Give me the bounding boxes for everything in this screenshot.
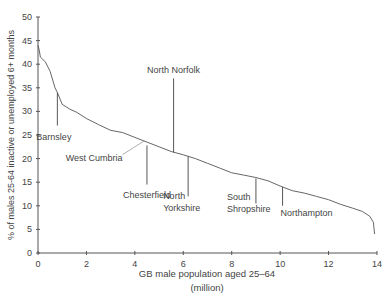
svg-text:Yorkshire: Yorkshire [163, 203, 200, 213]
annotations: BarnsleyWest CumbriaNorth NorfolkChester… [36, 65, 332, 217]
x-axis-label: GB male population aged 25–64 [139, 268, 275, 279]
x-tick-label: 12 [324, 259, 334, 269]
svg-text:Barnsley: Barnsley [36, 132, 72, 142]
y-tick-label: 20 [22, 154, 32, 164]
annotation-north-norfolk: North Norfolk [147, 65, 201, 152]
y-tick-label: 5 [27, 224, 32, 234]
y-tick-label: 0 [27, 248, 32, 258]
svg-text:North: North [163, 191, 185, 201]
x-tick-label: 0 [35, 259, 40, 269]
svg-text:South: South [227, 192, 251, 202]
annotation-west-cumbria: West Cumbria [66, 141, 145, 163]
tick-labels: 0246810121405101520253035404550 [22, 12, 382, 269]
x-tick-label: 4 [132, 259, 137, 269]
svg-text:North Norfolk: North Norfolk [147, 65, 201, 75]
svg-text:Shropshire: Shropshire [227, 204, 271, 214]
y-tick-label: 40 [22, 59, 32, 69]
y-tick-label: 25 [22, 130, 32, 140]
y-tick-label: 30 [22, 106, 32, 116]
annotation-barnsley: Barnsley [36, 93, 72, 142]
annotation-south-shropshire: SouthShropshire [227, 178, 271, 214]
x-tick-label: 2 [84, 259, 89, 269]
y-tick-label: 35 [22, 83, 32, 93]
data-line [38, 45, 375, 234]
x-tick-label: 10 [275, 259, 285, 269]
axes [36, 17, 377, 255]
y-tick-label: 50 [22, 12, 32, 22]
annotation-north-yorkshire: NorthYorkshire [163, 156, 200, 213]
annotation-northampton: Northampton [281, 187, 333, 218]
cumulative-line-chart: 0246810121405101520253035404550 Barnsley… [0, 0, 389, 305]
x-axis-label-unit: (million) [190, 282, 223, 293]
y-tick-label: 15 [22, 177, 32, 187]
svg-text:West Cumbria: West Cumbria [66, 153, 123, 163]
y-axis-label: % of males 25-64 inactive or unemployed … [6, 30, 16, 240]
y-tick-label: 45 [22, 36, 32, 46]
y-tick-label: 10 [22, 201, 32, 211]
svg-text:Northampton: Northampton [281, 208, 333, 218]
x-tick-label: 14 [372, 259, 382, 269]
